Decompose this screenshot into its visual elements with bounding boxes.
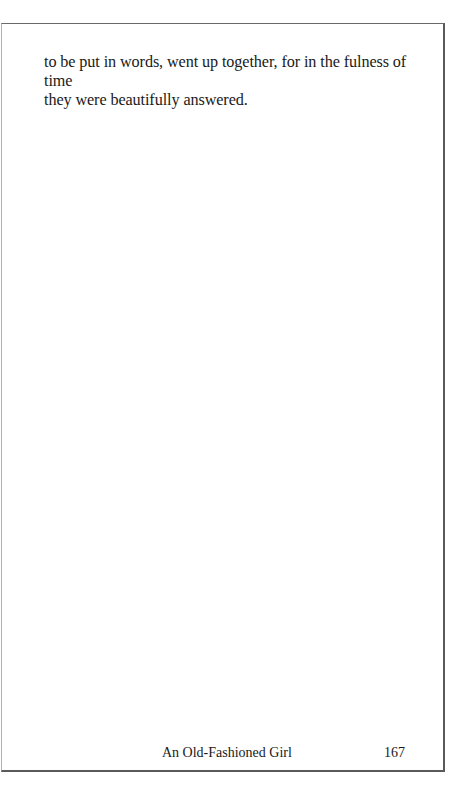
page-frame	[1, 23, 445, 772]
page-number: 167	[384, 744, 405, 762]
body-line-2: they were beautifully answered.	[44, 91, 424, 110]
body-text: to be put in words, went up together, fo…	[44, 53, 424, 110]
body-line-1: to be put in words, went up together, fo…	[44, 53, 424, 91]
running-title: An Old-Fashioned Girl	[162, 744, 292, 762]
